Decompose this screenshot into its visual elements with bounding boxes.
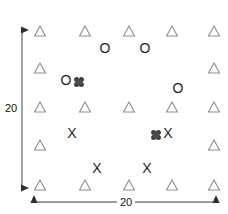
circle-marker-icon: O [173, 81, 184, 95]
triangle-marker-icon [79, 25, 92, 37]
cluster-marker-icon [151, 130, 162, 141]
triangle-marker-icon [123, 179, 136, 191]
triangle-marker-icon [166, 179, 179, 191]
triangle-marker-icon [208, 101, 221, 113]
triangle-marker-icon [79, 101, 92, 113]
triangle-marker-icon [208, 139, 221, 151]
triangle-marker-icon [34, 62, 47, 74]
scatter-marker-layer: OOOOXXXX [0, 0, 228, 214]
triangle-marker-icon [34, 179, 47, 191]
cross-marker-icon: X [67, 126, 76, 140]
triangle-marker-icon [34, 25, 47, 37]
triangle-marker-icon [208, 62, 221, 74]
triangle-marker-icon [34, 139, 47, 151]
cluster-marker-icon [74, 77, 85, 88]
triangle-marker-icon [123, 101, 136, 113]
triangle-marker-icon [166, 25, 179, 37]
circle-marker-icon: O [140, 41, 151, 55]
cross-marker-icon: X [163, 126, 172, 140]
circle-marker-icon: O [100, 41, 111, 55]
triangle-marker-icon [34, 101, 47, 113]
circle-marker-icon: O [61, 73, 72, 87]
triangle-marker-icon [208, 179, 221, 191]
triangle-marker-icon [208, 25, 221, 37]
triangle-marker-icon [166, 101, 179, 113]
cross-marker-icon: X [142, 161, 151, 175]
triangle-marker-icon [123, 25, 136, 37]
figure-canvas: 20 20 OOOOXXXX [0, 0, 228, 214]
triangle-marker-icon [79, 179, 92, 191]
cross-marker-icon: X [92, 161, 101, 175]
